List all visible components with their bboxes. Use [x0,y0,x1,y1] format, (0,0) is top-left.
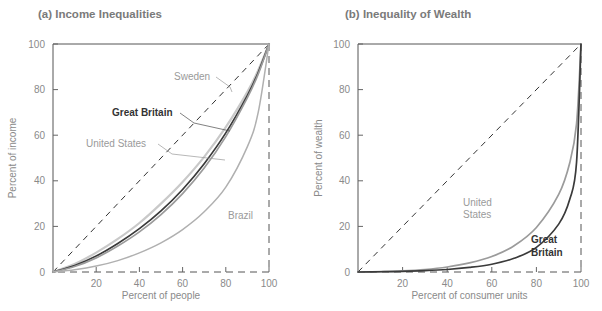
y-tick-label: 80 [339,84,351,95]
x-tick-label: 20 [91,278,103,289]
curve-label-united: United [463,197,492,208]
curve-label-brazil: Brazil [228,210,253,221]
x-tick-label: 60 [486,278,498,289]
panel-title-a: (a) Income Inequalities [38,8,162,20]
y-tick-label: 20 [34,221,46,232]
curve-label-states: States [463,209,491,220]
y-tick-label: 40 [34,175,46,186]
x-tick-label: 80 [220,278,232,289]
y-tick-label: 0 [39,267,45,278]
x-tick-label: 100 [261,278,278,289]
curve-label-united-states: United States [86,138,146,149]
x-tick-label: 100 [573,278,590,289]
x-tick-label: 60 [177,278,189,289]
x-tick-label: 20 [397,278,409,289]
y-axis-title: Percent of wealth [313,119,324,196]
curve-label-great-britain: Great Britain [112,107,173,118]
y-axis-title: Percent of income [7,117,18,198]
x-tick-label: 40 [442,278,454,289]
curve-label-sweden: Sweden [174,71,210,82]
curve-label-great: Great [531,234,558,245]
curve-label-britain: Britain [531,247,563,258]
y-tick-label: 0 [344,267,350,278]
chart-canvas: (a) Income Inequalities02040608010020406… [0,0,602,311]
y-tick-label: 80 [34,84,46,95]
leader-line-great-britain [180,113,230,131]
y-tick-label: 100 [28,39,45,50]
panel-a: (a) Income Inequalities02040608010020406… [7,8,278,301]
y-tick-label: 60 [339,130,351,141]
y-tick-label: 40 [339,175,351,186]
y-tick-label: 20 [339,221,351,232]
x-axis-title: Percent of people [122,290,201,301]
panel-title-b: (b) Inequality of Wealth [345,8,471,20]
x-axis-title: Percent of consumer units [411,290,527,301]
y-tick-label: 100 [333,39,350,50]
line-of-equality [53,44,269,272]
x-tick-label: 80 [531,278,543,289]
leader-line-sweden [216,77,232,92]
lorenz-curve-figure: (a) Income Inequalities02040608010020406… [0,0,602,311]
x-tick-label: 40 [134,278,146,289]
y-tick-label: 60 [34,130,46,141]
panel-b: (b) Inequality of Wealth0204060801002040… [313,8,590,301]
